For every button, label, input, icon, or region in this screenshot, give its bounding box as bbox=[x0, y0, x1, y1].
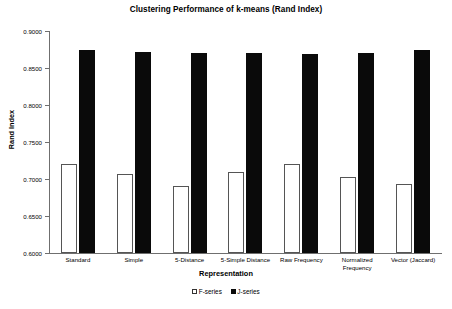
x-axis-tick-label: Simple bbox=[106, 256, 162, 264]
bar-j-series bbox=[414, 50, 430, 254]
bar-group bbox=[385, 31, 441, 253]
bar-group bbox=[162, 31, 218, 253]
chart-container: Clustering Performance of k-means (Rand … bbox=[0, 0, 452, 309]
x-axis-tick-label: 5-Distance bbox=[162, 256, 218, 264]
x-axis-tick-label: Standard bbox=[50, 256, 106, 264]
y-axis-tick-label: 0.7500 bbox=[0, 138, 42, 147]
bar-f-series bbox=[173, 186, 189, 253]
x-axis-title: Representation bbox=[0, 269, 452, 278]
y-axis-tick-label: 0.7000 bbox=[0, 175, 42, 184]
legend-item: F-series bbox=[192, 288, 222, 295]
bar-j-series bbox=[135, 52, 151, 253]
bar-group bbox=[273, 31, 329, 253]
bar-j-series bbox=[246, 53, 262, 253]
y-axis-tick-label: 0.6500 bbox=[0, 212, 42, 221]
legend-label: F-series bbox=[199, 288, 222, 295]
bar-j-series bbox=[358, 53, 374, 253]
bar-group bbox=[50, 31, 106, 253]
bar-f-series bbox=[396, 184, 412, 253]
bar-f-series bbox=[117, 174, 133, 253]
bars-layer bbox=[50, 31, 441, 253]
bar-group bbox=[218, 31, 274, 253]
legend-item: J-series bbox=[231, 288, 260, 295]
x-axis-tick-label: 5-Simple Distance bbox=[218, 256, 274, 264]
y-axis-tick-label: 0.6000 bbox=[0, 249, 42, 258]
bar-j-series bbox=[191, 53, 207, 253]
x-axis-tick-label: Raw Frequency bbox=[273, 256, 329, 264]
legend-swatch-icon bbox=[192, 289, 197, 294]
legend-swatch-icon bbox=[231, 289, 236, 294]
bar-j-series bbox=[302, 54, 318, 253]
bar-group bbox=[329, 31, 385, 253]
chart-title: Clustering Performance of k-means (Rand … bbox=[0, 5, 452, 14]
legend-label: J-series bbox=[237, 288, 259, 295]
y-axis-tick-label: 0.8500 bbox=[0, 64, 42, 73]
bar-j-series bbox=[79, 50, 95, 254]
bar-group bbox=[106, 31, 162, 253]
y-axis-tick-label: 0.9000 bbox=[0, 27, 42, 36]
y-axis-tick-label: 0.8000 bbox=[0, 101, 42, 110]
bar-f-series bbox=[61, 164, 77, 253]
bar-f-series bbox=[284, 164, 300, 253]
bar-f-series bbox=[228, 172, 244, 253]
chart-legend: F-seriesJ-series bbox=[0, 288, 452, 295]
bar-f-series bbox=[340, 177, 356, 253]
x-axis-tick-label: Vector (Jaccard) bbox=[385, 256, 441, 264]
